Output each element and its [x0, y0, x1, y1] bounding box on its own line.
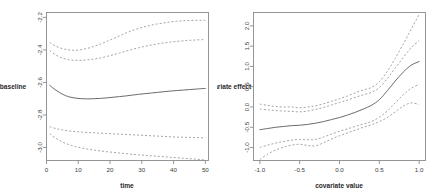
x-tick-label: 0	[45, 166, 49, 173]
y-tick-label: -2.8	[36, 109, 43, 120]
x-tick-label: 0.0	[335, 166, 344, 173]
x-axis-title: covariate value	[315, 182, 363, 189]
series-group-right	[260, 15, 419, 160]
plot-area-right: -1.0-0.50.00.51.02.01.51.00.50.0-0.5-1.0	[243, 13, 425, 173]
confidence-band	[260, 15, 419, 108]
y-tick-label: 1.5	[243, 41, 250, 50]
y-tick-label: -2.2	[36, 11, 43, 22]
y-axis-title: covariate effect	[217, 83, 252, 90]
plot-area-left: 01020304050-2.2-2.4-2.6-2.8-3.0	[36, 11, 209, 172]
figure-container: 01020304050-2.2-2.4-2.6-2.8-3.0 time bas…	[0, 0, 434, 196]
y-tick-label: 1.0	[243, 62, 250, 71]
y-axis-title: baseline	[0, 83, 27, 90]
x-tick-label: 30	[138, 166, 145, 173]
axis-group-right: -1.0-0.50.00.51.02.01.51.00.50.0-0.5-1.0	[243, 21, 424, 172]
y-tick-label: 2.0	[243, 21, 250, 30]
axis-group-left: 01020304050-2.2-2.4-2.6-2.8-3.0	[36, 11, 209, 172]
x-tick-label: -0.5	[294, 166, 305, 173]
series-group-left	[50, 20, 206, 160]
x-tick-label: 1.0	[415, 166, 424, 173]
y-tick-label: -2.6	[36, 77, 43, 88]
confidence-band	[50, 134, 206, 160]
x-tick-label: 50	[202, 166, 209, 173]
confidence-band	[260, 40, 419, 111]
estimate-curve	[50, 85, 206, 99]
y-tick-label: -3.0	[36, 142, 43, 153]
y-tick-label: -0.5	[243, 121, 250, 132]
x-tick-label: 0.5	[375, 166, 384, 173]
x-tick-label: 40	[170, 166, 177, 173]
confidence-band	[50, 127, 206, 138]
panel-covariate: -1.0-0.50.00.51.02.01.51.00.50.0-0.5-1.0…	[217, 0, 434, 196]
y-tick-label: 0.0	[243, 102, 250, 111]
curves	[50, 20, 206, 160]
confidence-band	[260, 84, 419, 147]
y-tick-label: -2.4	[36, 44, 43, 55]
curves	[260, 15, 419, 160]
plot-frame	[254, 13, 426, 161]
x-axis-title: time	[120, 182, 134, 189]
x-tick-label: -1.0	[255, 166, 266, 173]
estimate-curve	[260, 62, 419, 130]
panel-baseline: 01020304050-2.2-2.4-2.6-2.8-3.0 time bas…	[0, 0, 217, 196]
x-tick-label: 10	[75, 166, 82, 173]
panel-baseline-svg: 01020304050-2.2-2.4-2.6-2.8-3.0 time bas…	[0, 0, 217, 196]
y-tick-label: -1.0	[243, 142, 250, 153]
confidence-band	[50, 20, 206, 50]
panel-covariate-svg: -1.0-0.50.00.51.02.01.51.00.50.0-0.5-1.0…	[217, 0, 434, 196]
x-tick-label: 20	[107, 166, 114, 173]
plot-frame	[47, 13, 209, 161]
